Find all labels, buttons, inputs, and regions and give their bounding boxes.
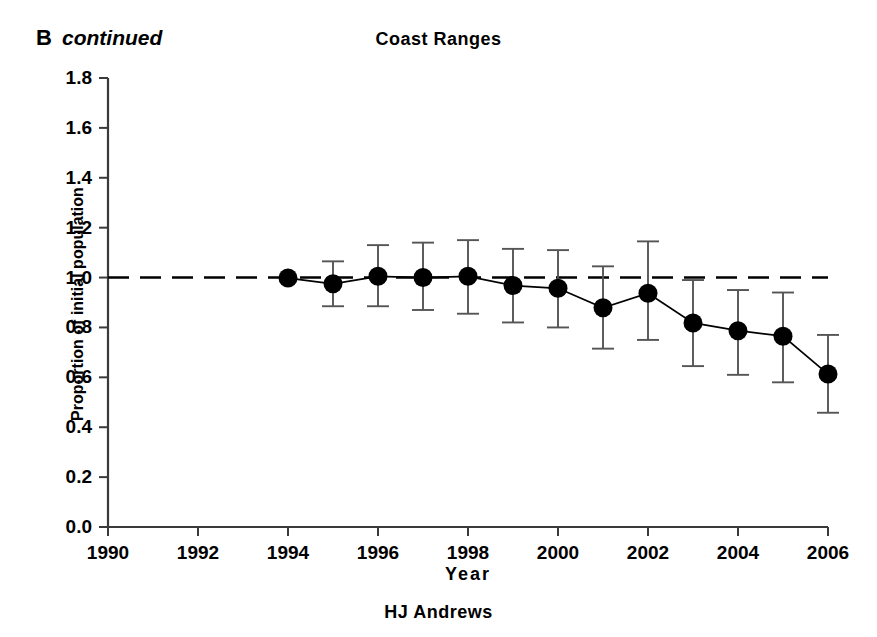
data-point-marker	[729, 321, 748, 340]
y-tick-group	[99, 78, 108, 527]
data-point-marker	[414, 268, 433, 287]
data-point-marker	[594, 298, 613, 317]
data-point-marker	[369, 267, 388, 286]
plot-area	[0, 0, 877, 637]
x-tick-group	[108, 527, 828, 536]
figure-panel: B continued Coast Ranges Proportion of i…	[0, 0, 877, 637]
data-point-marker	[639, 284, 658, 303]
data-point-marker	[684, 313, 703, 332]
data-point-marker	[279, 269, 298, 288]
data-point-marker	[504, 276, 523, 295]
data-point-marker	[549, 279, 568, 298]
data-point-marker	[819, 365, 838, 384]
error-bar-group	[322, 240, 839, 413]
data-point-marker	[774, 327, 793, 346]
data-point-marker	[459, 267, 478, 286]
data-point-marker	[324, 274, 343, 293]
